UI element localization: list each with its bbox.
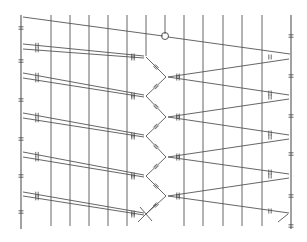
branch-segment-3	[146, 117, 166, 136]
branch-segment-1	[146, 77, 166, 96]
ray-diagram	[0, 0, 307, 242]
slash-mark-icon	[278, 214, 288, 222]
ray-tick-icon	[269, 55, 271, 60]
ray-left-6	[23, 152, 144, 175]
ray-tick-icon	[269, 174, 271, 179]
diagram-canvas	[0, 0, 307, 242]
ray-tick-icon	[177, 114, 179, 119]
ray-left-9	[23, 196, 144, 215]
ray-left-8	[23, 192, 144, 213]
ray-right-2	[168, 99, 289, 117]
ray-left-5	[23, 118, 144, 137]
ray-top	[23, 17, 163, 36]
branch-segment-6	[146, 176, 166, 196]
ray-tick-icon	[132, 56, 134, 61]
ray-tick-icon	[177, 74, 179, 79]
cross-arm-a	[138, 204, 156, 222]
ray-left-2	[23, 73, 144, 95]
ray-right-4	[168, 139, 289, 157]
cross-arm-b	[140, 207, 152, 221]
branch-segment-0	[146, 57, 166, 77]
ray-right-0	[168, 59, 289, 77]
branch-segment-5	[146, 157, 166, 176]
branch-segment-4	[146, 136, 166, 157]
ray-tick-icon	[269, 95, 271, 100]
ray-left-4	[23, 113, 144, 135]
ray-tick-icon	[269, 135, 271, 140]
ray-circle-right	[168, 37, 290, 54]
ray-tick-icon	[177, 154, 179, 159]
ray-tick-icon	[269, 209, 271, 214]
branch-segment-2	[146, 96, 166, 117]
ray-right-6	[168, 178, 289, 196]
ray-tick-icon	[177, 193, 179, 198]
ray-left-7	[23, 157, 144, 177]
ray-left-3	[23, 78, 144, 97]
